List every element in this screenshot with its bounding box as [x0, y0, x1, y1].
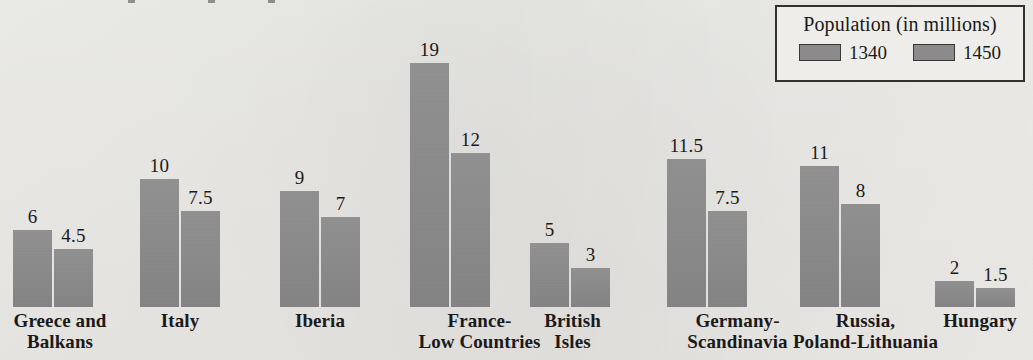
bar-group: 118	[800, 53, 880, 307]
bar-1450[interactable]: 7	[321, 53, 360, 307]
bar-rect	[571, 268, 610, 307]
bar-value-label: 9	[295, 168, 305, 187]
bar-group: 11.57.5	[667, 53, 747, 307]
bar-rect	[280, 191, 319, 307]
bar-value-label: 6	[28, 207, 38, 226]
bar-value-label: 10	[150, 156, 169, 175]
legend-entry-1450[interactable]: 1450	[913, 43, 1001, 62]
legend-swatch-1340	[799, 44, 841, 61]
bar-1450[interactable]: 4.5	[54, 53, 93, 307]
bar-rect	[181, 211, 220, 307]
bar-value-label: 7.5	[188, 188, 212, 207]
bar-1450[interactable]: 1.5	[976, 53, 1015, 307]
bar-value-label: 3	[586, 245, 596, 264]
legend-label-1450: 1450	[963, 43, 1001, 62]
legend-title: Population (in millions)	[777, 13, 1023, 35]
bar-group: 97	[280, 53, 360, 307]
bar-rect	[667, 159, 706, 307]
category-label: British Isles	[525, 310, 620, 353]
bar-group: 21.5	[935, 53, 1015, 307]
bar-1450[interactable]: 7.5	[708, 53, 747, 307]
bar-1340[interactable]: 19	[410, 53, 449, 307]
bar-1340[interactable]: 5	[530, 53, 569, 307]
bar-rect	[321, 217, 360, 307]
legend-label-1340: 1340	[849, 43, 887, 62]
category-label: Italy	[140, 310, 220, 331]
legend-swatch-1450	[913, 44, 955, 61]
bar-value-label: 19	[420, 40, 439, 59]
bar-1340[interactable]: 11	[800, 53, 839, 307]
bar-rect	[935, 281, 974, 307]
bar-rect	[708, 211, 747, 307]
bar-value-label: 12	[461, 130, 480, 149]
bar-value-label: 2	[950, 258, 960, 277]
legend-entries: 1340 1450	[777, 43, 1023, 62]
category-label: Hungary	[930, 310, 1030, 331]
bar-group: 64.5	[13, 53, 93, 307]
chart-legend: Population (in millions) 1340 1450	[775, 5, 1025, 82]
bar-value-label: 4.5	[61, 226, 85, 245]
bar-rect	[140, 179, 179, 308]
legend-entry-1340[interactable]: 1340	[799, 43, 887, 62]
bar-1340[interactable]: 9	[280, 53, 319, 307]
bar-1340[interactable]: 11.5	[667, 53, 706, 307]
bar-1450[interactable]: 12	[451, 53, 490, 307]
bar-value-label: 5	[545, 220, 555, 239]
bar-rect	[54, 249, 93, 307]
bar-rect	[410, 63, 449, 307]
category-label: Greece and Balkans	[0, 310, 125, 353]
bar-1340[interactable]: 10	[140, 53, 179, 307]
bar-value-label: 7.5	[715, 188, 739, 207]
bar-rect	[451, 153, 490, 307]
bar-rect	[800, 166, 839, 307]
bar-group: 53	[530, 53, 610, 307]
bar-rect	[976, 288, 1015, 307]
bar-value-label: 8	[856, 181, 866, 200]
bar-1450[interactable]: 7.5	[181, 53, 220, 307]
bar-1340[interactable]: 2	[935, 53, 974, 307]
bar-group: 1912	[410, 53, 490, 307]
bar-group: 107.5	[140, 53, 220, 307]
bar-value-label: 1.5	[983, 265, 1007, 284]
bar-value-label: 7	[336, 194, 346, 213]
bar-1450[interactable]: 3	[571, 53, 610, 307]
bar-value-label: 11.5	[670, 136, 703, 155]
bar-rect	[841, 204, 880, 307]
bar-value-label: 11	[810, 143, 829, 162]
bar-rect	[530, 243, 569, 307]
category-label: Iberia	[280, 310, 360, 331]
bar-1340[interactable]: 6	[13, 53, 52, 307]
bar-1450[interactable]: 8	[841, 53, 880, 307]
bar-rect	[13, 230, 52, 307]
